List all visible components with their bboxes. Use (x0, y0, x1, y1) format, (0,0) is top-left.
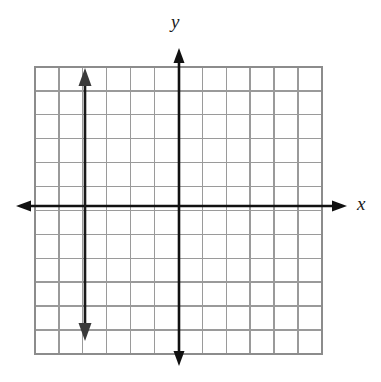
x-axis-label: x (357, 194, 365, 213)
figure-background (0, 0, 381, 382)
y-axis-label: y (171, 12, 179, 31)
coordinate-plane-figure (0, 0, 381, 382)
